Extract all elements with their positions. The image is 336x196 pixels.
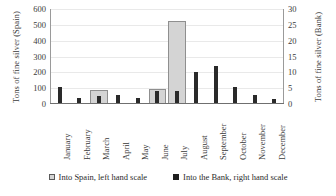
x-tick-label-october: October [239, 133, 248, 160]
x-tick-label-may: May [141, 144, 150, 160]
y-tick-right-0: 0 [288, 100, 312, 109]
bar-slot-december [265, 9, 285, 104]
x-tick-label-august: August [200, 135, 209, 160]
x-tick-label-november: November [258, 124, 267, 160]
y-tick-left-200: 200 [22, 68, 46, 77]
x-tick-label-january: January [63, 134, 72, 160]
bar-slot-july [167, 9, 187, 104]
bar-slot-november [245, 9, 265, 104]
plot-area [50, 9, 284, 104]
bar-into-the-bank-september [214, 66, 218, 104]
y-tick-left-100: 100 [22, 84, 46, 93]
bar-slot-may [128, 9, 148, 104]
legend-label-into-spain: Into Spain, left hand scale [59, 172, 148, 182]
legend-item-into-the-bank: Into the Bank, right hand scale [173, 172, 287, 182]
legend-swatch-into-the-bank [173, 174, 179, 180]
y-tick-right-25: 25 [288, 21, 312, 30]
y-axis-left-ticks: 0100200300400500600 [22, 0, 46, 112]
y-tick-right-30: 30 [288, 5, 312, 14]
x-tick-label-march: March [102, 138, 111, 160]
legend: Into Spain, left hand scale Into the Ban… [0, 172, 336, 182]
bar-slot-august [187, 9, 207, 104]
bar-slot-february [70, 9, 90, 104]
bar-slot-january [50, 9, 70, 104]
y-tick-right-5: 5 [288, 84, 312, 93]
bar-into-the-bank-august [194, 72, 198, 104]
chart-container: Tons of fine silver (Spain) Tons of fine… [0, 0, 336, 196]
bar-group [50, 9, 284, 104]
x-tick-label-june: June [161, 144, 170, 160]
y-tick-left-300: 300 [22, 53, 46, 62]
y-tick-left-0: 0 [22, 100, 46, 109]
legend-label-into-the-bank: Into the Bank, right hand scale [183, 172, 287, 182]
y-axis-right-ticks: 051015202530 [288, 0, 312, 112]
y-axis-right-title: Tons of fine silver (Bank) [313, 7, 323, 107]
x-tick-label-april: April [122, 142, 131, 160]
bar-slot-september [206, 9, 226, 104]
bar-into-the-bank-october [233, 87, 237, 104]
x-tick-label-september: September [219, 124, 228, 160]
x-tick-label-july: July [180, 146, 189, 160]
legend-item-into-spain: Into Spain, left hand scale [49, 172, 148, 182]
bar-slot-june [148, 9, 168, 104]
y-tick-left-500: 500 [22, 21, 46, 30]
y-axis-left-title: Tons of fine silver (Spain) [11, 7, 21, 107]
x-tick-label-december: December [278, 125, 287, 160]
y-tick-right-20: 20 [288, 37, 312, 46]
x-axis-line [50, 103, 284, 104]
y-tick-right-10: 10 [288, 68, 312, 77]
y-tick-left-600: 600 [22, 5, 46, 14]
bar-slot-october [226, 9, 246, 104]
bar-slot-march [89, 9, 109, 104]
legend-swatch-into-spain [49, 174, 55, 180]
y-tick-left-400: 400 [22, 37, 46, 46]
x-tick-label-february: February [83, 129, 92, 160]
bar-slot-april [109, 9, 129, 104]
bar-into-the-bank-january [58, 87, 62, 104]
y-tick-right-15: 15 [288, 53, 312, 62]
x-axis-tick-labels: JanuaryFebruaryMarchAprilMayJuneJulyAugu… [50, 106, 284, 162]
